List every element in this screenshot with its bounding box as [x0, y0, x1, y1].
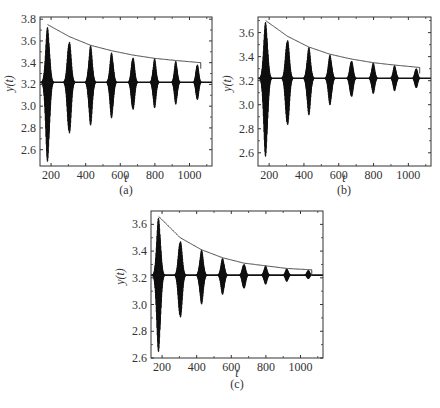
chart-panel-a: 20040060080010002.62.83.03.23.43.63.8ty(… — [2, 12, 212, 197]
x-tick-label: 200 — [260, 168, 278, 182]
x-tick-label: 800 — [257, 360, 275, 374]
x-tick-label: 400 — [188, 360, 206, 374]
x-tick-label: 200 — [153, 360, 171, 374]
y-tick-label: 3.2 — [132, 271, 147, 285]
y-tick-label: 2.8 — [239, 122, 254, 136]
panel-caption: (b) — [337, 183, 351, 197]
x-tick-label: 800 — [146, 168, 164, 182]
y-tick-label: 3.4 — [132, 244, 147, 258]
y-tick-label: 2.8 — [21, 121, 36, 135]
x-tick-label: 400 — [77, 168, 95, 182]
y-tick-label: 3.0 — [132, 298, 147, 312]
x-tick-label: 1000 — [289, 360, 313, 374]
y-tick-label: 3.6 — [132, 217, 147, 231]
y-tick-label: 3.4 — [21, 56, 36, 70]
y-tick-label: 2.8 — [132, 324, 147, 338]
figure: 20040060080010002.62.83.03.23.43.63.8ty(… — [0, 0, 440, 408]
y-tick-label: 3.6 — [21, 34, 36, 48]
panel-caption: (c) — [230, 377, 243, 391]
y-tick-label: 2.6 — [239, 146, 254, 160]
y-tick-label: 3.0 — [21, 99, 36, 113]
y-tick-label: 2.6 — [21, 143, 36, 157]
signal-bursts — [41, 27, 202, 162]
x-tick-label: 400 — [295, 168, 313, 182]
y-tick-label: 2.6 — [132, 351, 147, 365]
y-tick-label: 3.4 — [239, 50, 254, 64]
y-tick-label: 3.6 — [239, 26, 254, 40]
chart-panel-c: 20040060080010002.62.83.03.23.43.6ty(t)(… — [113, 211, 323, 391]
y-axis-label: y(t) — [113, 268, 127, 286]
x-tick-label: 1000 — [396, 168, 420, 182]
y-tick-label: 3.2 — [239, 74, 254, 88]
y-axis-label: y(t) — [2, 75, 16, 93]
chart-panel-b: 20040060080010002.62.83.03.23.43.6ty(t)(… — [220, 17, 431, 197]
panel-caption: (a) — [119, 183, 132, 197]
y-tick-label: 3.2 — [21, 77, 36, 91]
signal-bursts — [259, 22, 421, 157]
x-tick-label: 1000 — [178, 168, 202, 182]
x-tick-label: 800 — [365, 168, 383, 182]
signal-bursts — [152, 218, 313, 352]
y-axis-label: y(t) — [220, 75, 234, 93]
x-tick-label: 200 — [42, 168, 60, 182]
y-tick-label: 3.8 — [21, 12, 36, 26]
y-tick-label: 3.0 — [239, 98, 254, 112]
